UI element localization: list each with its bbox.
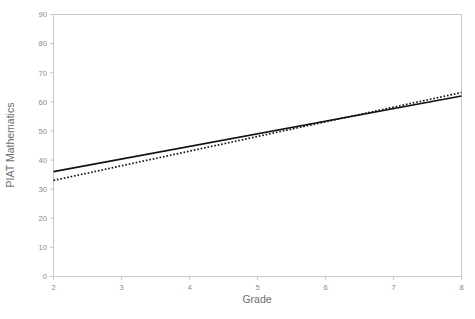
y-tick-label: 10 <box>39 243 47 252</box>
x-tick-label: 8 <box>459 283 463 292</box>
y-tick-label: 20 <box>39 214 47 223</box>
x-tick-label: 3 <box>119 283 123 292</box>
x-axis-title: Grade <box>242 293 271 305</box>
y-tick-label: 80 <box>39 39 47 48</box>
chart-figure: 0102030405060708090 2345678 Grade PIAT M… <box>0 0 475 319</box>
figure-background <box>0 0 475 319</box>
x-tick-label: 2 <box>51 283 55 292</box>
y-axis-title: PIAT Mathematics <box>4 103 16 188</box>
y-tick-label: 70 <box>39 69 47 78</box>
y-tick-label: 0 <box>43 272 47 281</box>
y-tick-label: 60 <box>39 98 47 107</box>
y-tick-label: 50 <box>39 127 47 136</box>
x-tick-label: 6 <box>323 283 327 292</box>
x-tick-label: 7 <box>391 283 395 292</box>
y-tick-label: 90 <box>39 10 47 19</box>
y-tick-label: 40 <box>39 156 47 165</box>
y-tick-label: 30 <box>39 185 47 194</box>
x-tick-label: 4 <box>187 283 191 292</box>
x-tick-label: 5 <box>255 283 259 292</box>
